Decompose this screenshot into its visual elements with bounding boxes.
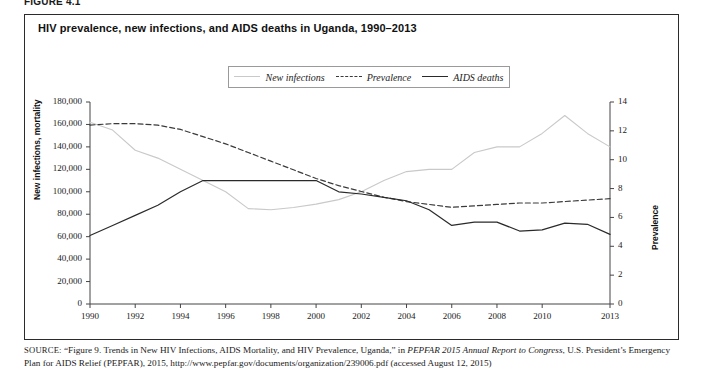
y-axis-right-tick-label: 14 xyxy=(618,96,627,106)
series-line-aids-deaths xyxy=(90,181,610,236)
y-axis-left-tick-label: 80,000 xyxy=(38,208,82,218)
chart-title: HIV prevalence, new infections, and AIDS… xyxy=(38,22,417,34)
legend-label: AIDS deaths xyxy=(453,72,503,83)
plot-area: New infections, mortality Prevalence 020… xyxy=(38,96,663,328)
source-prefix: SOURCE: xyxy=(24,345,62,355)
x-axis-tick-label: 1992 xyxy=(115,311,155,321)
y-axis-left-tick-label: 20,000 xyxy=(38,276,82,286)
y-axis-right-tick-label: 12 xyxy=(618,125,627,135)
series-line-prevalence xyxy=(90,124,610,208)
y-axis-right-tick-label: 6 xyxy=(618,211,623,221)
x-axis-tick-label: 1994 xyxy=(160,311,200,321)
y-axis-right-tick-label: 4 xyxy=(618,240,623,250)
x-axis-tick-label: 2013 xyxy=(590,311,630,321)
y-axis-left-tick-label: 40,000 xyxy=(38,253,82,263)
source-note: SOURCE: “Figure 9. Trends in New HIV Inf… xyxy=(24,344,684,370)
legend-item-aids-deaths[interactable]: AIDS deaths xyxy=(422,72,503,83)
y-axis-left-tick-label: 120,000 xyxy=(38,163,82,173)
x-axis-tick-label: 2004 xyxy=(387,311,427,321)
x-axis-tick-label: 2008 xyxy=(477,311,517,321)
legend-label: New infections xyxy=(265,72,324,83)
x-axis-tick-label: 1996 xyxy=(206,311,246,321)
y-axis-right-tick-label: 0 xyxy=(618,298,623,308)
source-text-1: “Figure 9. Trends in New HIV Infections,… xyxy=(62,345,408,355)
legend-label: Prevalence xyxy=(367,72,412,83)
legend-item-new-infections[interactable]: New infections xyxy=(234,72,324,83)
y-axis-left-tick-label: 140,000 xyxy=(38,141,82,151)
line-swatch-icon xyxy=(234,73,260,81)
y-axis-left-tick-label: 100,000 xyxy=(38,186,82,196)
x-axis-tick-label: 2000 xyxy=(296,311,336,321)
x-axis-tick-label: 1998 xyxy=(251,311,291,321)
y-axis-right-tick-label: 10 xyxy=(618,154,627,164)
series-line-new-infections xyxy=(90,115,610,209)
line-swatch-icon xyxy=(422,73,448,81)
x-axis-tick-label: 2010 xyxy=(522,311,562,321)
chart-canvas xyxy=(38,96,663,328)
chart-legend: New infections Prevalence AIDS deaths xyxy=(228,66,510,88)
y-axis-right-tick-label: 8 xyxy=(618,183,623,193)
figure-tag: FIGURE 4.1 xyxy=(24,0,80,7)
y-axis-left-tick-label: 0 xyxy=(38,298,82,308)
y-axis-right-tick-label: 2 xyxy=(618,269,623,279)
y-axis-left-tick-label: 160,000 xyxy=(38,118,82,128)
dashed-line-swatch-icon xyxy=(336,73,362,81)
figure-root: FIGURE 4.1 HIV prevalence, new infection… xyxy=(0,0,705,387)
x-axis-tick-label: 1990 xyxy=(70,311,110,321)
y-axis-left-tick-label: 180,000 xyxy=(38,96,82,106)
source-italic-1: PEPFAR 2015 Annual Report to Congress xyxy=(407,345,562,355)
legend-item-prevalence[interactable]: Prevalence xyxy=(336,72,412,83)
y-axis-left-tick-label: 60,000 xyxy=(38,231,82,241)
x-axis-tick-label: 2006 xyxy=(432,311,472,321)
y-axis-right-title: Prevalence xyxy=(650,205,660,250)
x-axis-tick-label: 2002 xyxy=(341,311,381,321)
